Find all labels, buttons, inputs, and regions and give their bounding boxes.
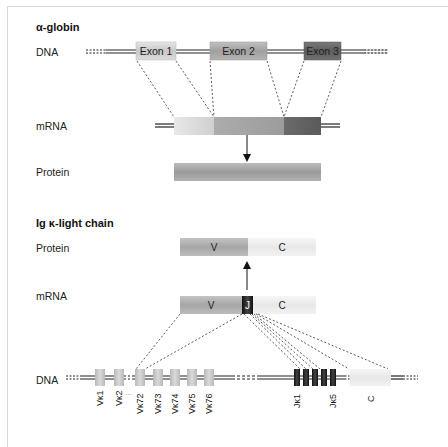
alpha-globin-title: α-globin — [36, 21, 80, 33]
ig-protein: V C — [180, 238, 316, 256]
exon-3-label: Exon 3 — [306, 45, 339, 57]
v-label-74: Vκ74 — [170, 393, 180, 414]
ig-protein-v-label: V — [211, 242, 218, 253]
v-gene-76 — [204, 369, 214, 386]
exon-1-label: Exon 1 — [140, 45, 173, 57]
v-label-2: Vκ2 — [114, 390, 124, 406]
j-gene-1 — [294, 369, 300, 386]
ig-mrna: V J C — [180, 296, 316, 314]
ig-dna-label: DNA — [36, 374, 58, 386]
c-gene-segment — [350, 369, 391, 386]
alpha-protein-label: Protein — [36, 166, 69, 178]
ig-mrna-c-label: C — [278, 300, 285, 311]
alpha-splice-lines — [137, 61, 341, 117]
j-gene-4 — [321, 369, 327, 386]
v-label-72: Vκ72 — [135, 393, 145, 414]
v-gene-73 — [153, 369, 163, 386]
j-gene-5 — [330, 369, 336, 386]
v-label-75: Vκ75 — [187, 393, 197, 414]
v-gene-1 — [95, 369, 105, 386]
v-gene-74 — [170, 369, 180, 386]
mrna-exon-2 — [214, 117, 284, 135]
v-label-76: Vκ76 — [204, 393, 214, 414]
mrna-exon-1 — [174, 117, 214, 135]
ig-recombination-lines — [136, 314, 388, 369]
alpha-mrna-label: mRNA — [36, 120, 67, 132]
j-gene-3 — [312, 369, 318, 386]
v-gene-72 — [135, 369, 145, 386]
v-gene-labels: Vκ1 Vκ2 ··· Vκ72 Vκ73 Vκ74 Vκ75 Vκ76 — [95, 390, 214, 414]
j-label-1: Jκ1 — [292, 394, 302, 408]
ig-kappa-title: Ig κ-light chain — [36, 217, 114, 229]
ig-protein-label: Protein — [36, 242, 69, 254]
mrna-exon-3 — [284, 117, 321, 135]
ig-mrna-v-label: V — [208, 300, 215, 311]
j-c-gene-labels: Jκ1 Jκ5 C — [292, 394, 376, 408]
exon-2: Exon 2 — [210, 42, 267, 60]
alpha-protein-bar — [174, 163, 321, 181]
v-label-1: Vκ1 — [95, 390, 105, 406]
v-gap-marker: ··· — [125, 391, 132, 398]
ig-mrna-j-label: J — [245, 300, 250, 311]
exon-1: Exon 1 — [136, 42, 176, 60]
v-gene-75 — [187, 369, 197, 386]
v-gene-segments — [95, 369, 214, 386]
j-gene-segments — [294, 369, 336, 386]
alpha-mrna — [155, 117, 340, 135]
alpha-dna-label: DNA — [36, 46, 58, 58]
v-label-73: Vκ73 — [153, 393, 163, 414]
v-gene-2 — [114, 369, 124, 386]
ig-protein-c-label: C — [278, 242, 285, 253]
exon-2-label: Exon 2 — [222, 45, 255, 57]
c-gene-label: C — [366, 395, 376, 402]
exon-3: Exon 3 — [304, 42, 341, 60]
j-label-5: Jκ5 — [328, 394, 338, 408]
j-gene-2 — [303, 369, 309, 386]
ig-mrna-label: mRNA — [36, 290, 67, 302]
